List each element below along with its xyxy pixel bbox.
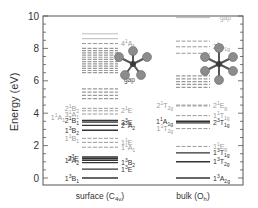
plot-axes: 0246810surface (C4v)bulk (Oh) [28, 11, 243, 203]
ligand-atom [229, 67, 238, 76]
y-tick-label: 4 [33, 108, 39, 119]
ligand-atom [129, 47, 138, 56]
energy-level-diagram: 0246810surface (C4v)bulk (Oh) 41A113B113… [0, 0, 258, 208]
y-tick-label: 2 [33, 140, 39, 151]
ligand-atom [121, 71, 130, 80]
metal-atom [216, 61, 222, 67]
ligand-atom [201, 67, 210, 76]
state-label: 21E [121, 105, 133, 114]
ligand-atom [201, 53, 210, 62]
ligand-atom [143, 53, 152, 62]
column-surface [82, 34, 118, 178]
metal-atom [130, 61, 136, 67]
ligand-atom [137, 71, 146, 80]
state-label: 23E [68, 153, 80, 162]
y-tick-label: 0 [33, 173, 39, 184]
state-label: 33E [121, 117, 133, 126]
y-tick-label: 6 [33, 75, 39, 86]
ligand-atom [229, 53, 238, 62]
gap-label: gap [220, 14, 231, 22]
energy-levels [82, 18, 210, 178]
level-labels: 41A113B113E13B213A223E11A111E11B113B223A… [51, 14, 231, 183]
state-label: 13B1 [65, 173, 79, 184]
state-label: 21T2g [156, 100, 173, 111]
y-tick-label: 8 [33, 43, 39, 54]
x-category-label: surface (C4v) [76, 191, 125, 202]
y-tick-label: 10 [28, 11, 40, 22]
column-bulk [176, 18, 210, 178]
x-category-label: bulk (Oh) [176, 191, 210, 202]
square-pyramidal-molecule-icon [115, 47, 152, 80]
ligand-atom [215, 76, 224, 85]
ligand-atom [115, 53, 124, 62]
ligand-atom [215, 44, 224, 53]
state-label: 21Eg [213, 100, 227, 111]
state-label: 11E [121, 137, 133, 146]
y-axis-label: Energy (eV) [8, 73, 20, 132]
state-label: 11A1 [51, 112, 65, 123]
state-label: 13A2g [213, 173, 230, 184]
